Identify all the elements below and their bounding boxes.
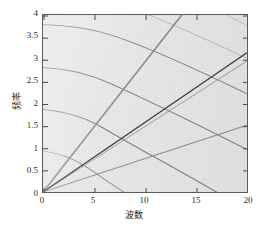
ray-3 bbox=[43, 61, 247, 192]
x-tick-0: 0 bbox=[30, 196, 54, 205]
x-tick-labels: 0 5 10 15 20 bbox=[0, 196, 267, 208]
x-tick-1: 5 bbox=[81, 196, 105, 205]
x-axis-title: 波数 bbox=[0, 208, 267, 221]
curve-1 bbox=[43, 25, 247, 94]
curve-6-faint bbox=[43, 15, 247, 26]
ray-2-dark-main bbox=[43, 53, 247, 192]
y-axis-title: 频率 bbox=[10, 78, 23, 124]
figure-dispersion-chart: 0 0.5 1 1.5 2 2.5 3 3.5 4 0 5 10 15 20 频… bbox=[0, 0, 267, 231]
x-tick-3: 15 bbox=[184, 196, 208, 205]
y-tick-7: 3.5 bbox=[16, 31, 38, 40]
x-tick-4: 20 bbox=[236, 196, 260, 205]
y-tick-2: 1 bbox=[16, 144, 38, 153]
curve-2 bbox=[43, 68, 247, 150]
plot-svg bbox=[43, 15, 247, 192]
ray-1-steepest bbox=[43, 15, 182, 192]
x-axis-title-text: 波数 bbox=[125, 208, 143, 221]
y-tick-6: 3 bbox=[16, 54, 38, 63]
y-axis-title-text: 频率 bbox=[10, 92, 23, 110]
y-tick-1: 0.5 bbox=[16, 166, 38, 175]
ray-4-lowest bbox=[43, 125, 247, 192]
y-tick-8: 4 bbox=[16, 9, 38, 18]
x-tick-2: 10 bbox=[132, 196, 156, 205]
curve-5-faint bbox=[43, 15, 247, 58]
data-lines bbox=[43, 15, 247, 192]
plot-area bbox=[42, 14, 248, 193]
